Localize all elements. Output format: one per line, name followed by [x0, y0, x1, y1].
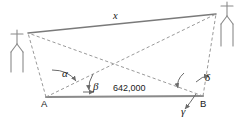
baseline-ab — [46, 96, 203, 97]
label-point-b: B — [200, 99, 206, 109]
label-angle-alpha: α — [62, 68, 68, 79]
church-icon-left — [11, 30, 23, 72]
sightline-b-to-right-church — [203, 14, 216, 96]
figure-canvas: x α β δ γ 642,000 A B — [0, 0, 242, 120]
distance-x-line — [28, 14, 216, 33]
label-angle-beta: β — [93, 81, 98, 92]
sightline-a-to-left-church — [28, 33, 46, 97]
angle-arc-b-inner — [178, 73, 184, 88]
label-baseline-distance: 642,000 — [113, 84, 146, 93]
label-distance-x: x — [113, 11, 118, 22]
label-point-a: A — [41, 99, 47, 109]
church-icon-right — [221, 2, 233, 46]
label-angle-gamma: γ — [181, 106, 185, 117]
label-angle-delta: δ — [205, 72, 210, 83]
